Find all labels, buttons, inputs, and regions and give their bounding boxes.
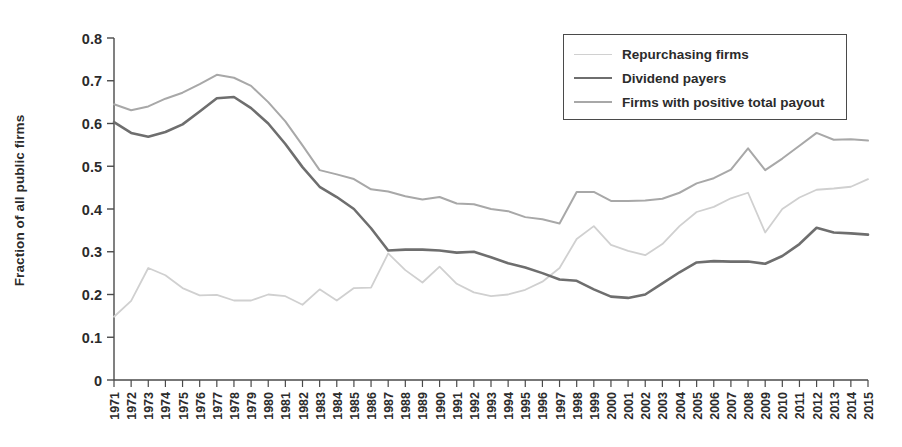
x-tick-label: 2001: [622, 392, 636, 420]
x-tick-label: 2004: [674, 392, 688, 420]
x-tick-label: 1993: [485, 392, 499, 420]
x-tick-label: 2008: [742, 392, 756, 420]
x-tick-label: 1998: [571, 392, 585, 420]
legend-swatch-positive-total-payout: [574, 101, 612, 103]
x-tick-label: 1984: [331, 392, 345, 420]
x-tick-label: 2010: [776, 392, 790, 420]
x-tick-label: 1978: [228, 392, 242, 420]
x-tick-label: 1985: [348, 392, 362, 420]
x-tick-label: 2014: [845, 392, 859, 420]
chart-legend: Repurchasing firms Dividend payers Firms…: [563, 34, 847, 120]
x-tick-label: 1977: [211, 392, 225, 420]
y-tick-label: 0.5: [82, 159, 102, 175]
x-tick-label: 1994: [502, 392, 516, 420]
x-tick-label: 2002: [639, 392, 653, 420]
x-tick-label: 2013: [828, 392, 842, 420]
x-tick-label: 1980: [262, 392, 276, 420]
legend-swatch-dividend-payers: [574, 77, 612, 79]
x-tick-label: 1981: [279, 392, 293, 420]
series-line-0: [114, 179, 868, 317]
x-tick-label: 1976: [194, 392, 208, 420]
legend-label-repurchasing-firms: Repurchasing firms: [622, 47, 749, 62]
legend-label-positive-total-payout: Firms with positive total payout: [622, 95, 825, 110]
x-tick-label: 2003: [656, 392, 670, 420]
x-tick-label: 1992: [468, 392, 482, 420]
x-tick-label: 2006: [708, 392, 722, 420]
x-tick-label: 1988: [399, 392, 413, 420]
x-tick-label: 2000: [605, 392, 619, 420]
x-tick-label: 1989: [416, 392, 430, 420]
x-tick-label: 1986: [365, 392, 379, 420]
y-tick-label: 0.1: [82, 330, 102, 346]
legend-swatch-repurchasing-firms: [574, 54, 612, 55]
x-tick-label: 1982: [297, 392, 311, 420]
x-tick-label: 1991: [451, 392, 465, 420]
x-tick-label: 2012: [811, 392, 825, 420]
x-tick-label: 1999: [588, 392, 602, 420]
x-tick-label: 1995: [519, 392, 533, 420]
x-tick-label: 1971: [108, 392, 122, 420]
y-tick-label: 0.2: [82, 287, 102, 303]
x-tick-label: 2007: [725, 392, 739, 420]
legend-label-dividend-payers: Dividend payers: [622, 71, 726, 86]
x-tick-label: 2005: [691, 392, 705, 420]
y-tick-label: 0.7: [82, 73, 102, 89]
y-tick-label: 0.8: [82, 31, 102, 47]
y-tick-label: 0.4: [82, 202, 102, 218]
x-tick-label: 1972: [125, 392, 139, 420]
x-tick-label: 2015: [862, 392, 876, 420]
series-line-1: [114, 97, 868, 298]
y-tick-label: 0: [94, 373, 102, 389]
y-tick-label: 0.6: [82, 116, 102, 132]
x-tick-label: 1987: [382, 392, 396, 420]
legend-item-repurchasing-firms: Repurchasing firms: [574, 42, 836, 66]
y-tick-label: 0.3: [82, 244, 102, 260]
x-tick-label: 1983: [314, 392, 328, 420]
x-tick-label: 1973: [142, 392, 156, 420]
x-tick-label: 1996: [536, 392, 550, 420]
x-tick-label: 1974: [159, 392, 173, 420]
x-tick-label: 1997: [554, 392, 568, 420]
x-tick-label: 2011: [793, 392, 807, 419]
x-tick-label: 1990: [434, 392, 448, 420]
legend-item-dividend-payers: Dividend payers: [574, 66, 836, 90]
legend-item-positive-total-payout: Firms with positive total payout: [574, 90, 836, 114]
x-tick-label: 1979: [245, 392, 259, 420]
x-tick-label: 2009: [759, 392, 773, 420]
x-tick-label: 1975: [177, 392, 191, 420]
payout-trend-chart: 00.10.20.30.40.50.60.70.8197119721973197…: [0, 0, 902, 447]
